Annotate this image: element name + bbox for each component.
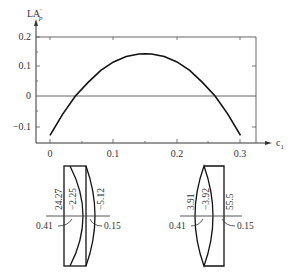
y-axis-title: LA′p — [27, 7, 43, 22]
thickness-label: 0.15 — [104, 221, 121, 231]
x-tick-label: 0.2 — [171, 148, 184, 159]
thickness-label: 0.15 — [237, 221, 254, 231]
x-tick-label: 0.3 — [234, 148, 247, 159]
x-axis-title: c1 — [276, 137, 284, 151]
x-tick-label: 0.1 — [107, 148, 120, 159]
y-tick-label: −0.1 — [13, 121, 31, 132]
y-axis-arrow-icon — [34, 19, 38, 26]
y-tick-label: 0.1 — [19, 60, 32, 71]
lens-diagram-right: 3.91 −3.92 55.5 0.41 0.15 — [169, 166, 254, 266]
radius-label: −5.12 — [96, 188, 106, 210]
x-axis-arrow-icon — [265, 141, 272, 145]
thickness-label: 0.41 — [169, 221, 186, 231]
y-ticks — [36, 37, 256, 127]
x-ticks — [50, 37, 240, 143]
radius-label: 3.91 — [186, 193, 196, 210]
chart: 0.2 0.1 0 −0.1 0 0.1 0.2 0.3 LA′p c1 — [13, 7, 285, 159]
thickness-label: 0.41 — [36, 221, 53, 231]
leader-line — [191, 219, 203, 226]
x-tick-label: 0 — [48, 148, 53, 159]
data-curve — [50, 54, 241, 136]
leader-line — [90, 219, 102, 226]
radius-label: 24.27 — [54, 188, 64, 210]
lens-diagram-left: 24.27 −2.25 −5.12 0.41 0.15 — [36, 166, 121, 266]
leader-line — [58, 219, 72, 226]
radius-label: −2.25 — [68, 188, 78, 210]
y-tick-label: 0 — [26, 90, 31, 101]
y-tick-label: 0.2 — [19, 31, 32, 42]
radius-label: 55.5 — [225, 193, 235, 210]
figure: 0.2 0.1 0 −0.1 0 0.1 0.2 0.3 LA′p c1 24.… — [0, 0, 292, 273]
radius-label: −3.92 — [201, 188, 211, 210]
